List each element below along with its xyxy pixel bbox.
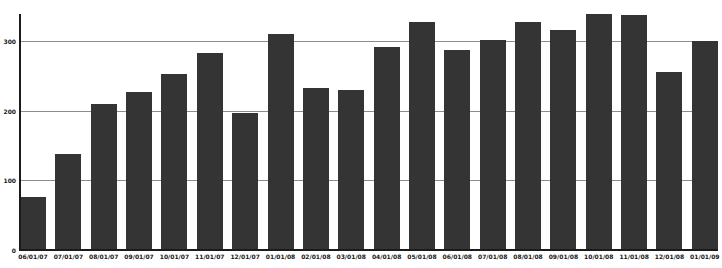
bar: [692, 41, 718, 250]
x-tick-slot: 09/01/07: [126, 253, 152, 263]
x-tick-label: 11/01/07: [195, 253, 224, 260]
x-tick-label: 02/01/08: [301, 253, 330, 260]
x-tick-label: 07/01/07: [54, 253, 83, 260]
x-tick-slot: 06/01/07: [20, 253, 46, 263]
bars-layer: [20, 14, 718, 250]
x-tick-slot: 07/01/08: [480, 253, 506, 263]
bar: [374, 47, 400, 250]
x-tick-slot: 06/01/08: [444, 253, 470, 263]
bar: [338, 90, 364, 250]
bar: [480, 40, 506, 250]
x-tick-label: 10/01/08: [584, 253, 613, 260]
x-tick-slot: 07/01/07: [55, 253, 81, 263]
x-tick-label: 12/01/07: [230, 253, 259, 260]
x-tick-label: 01/01/08: [266, 253, 295, 260]
y-tick-label: 200: [0, 108, 16, 115]
bar: [621, 15, 647, 250]
bar: [586, 14, 612, 250]
bar: [409, 22, 435, 250]
bar: [268, 34, 294, 250]
x-tick-slot: 10/01/07: [161, 253, 187, 263]
y-tick-label: 100: [0, 177, 16, 184]
x-tick-label: 04/01/08: [372, 253, 401, 260]
x-tick-slot: 11/01/07: [197, 253, 223, 263]
y-tick-label: 0: [0, 247, 16, 254]
x-tick-label: 12/01/08: [655, 253, 684, 260]
bar: [303, 88, 329, 250]
bar: [55, 154, 81, 250]
x-tick-label: 08/01/07: [89, 253, 118, 260]
bar: [444, 50, 470, 250]
bar: [20, 197, 46, 250]
x-tick-label: 06/01/08: [443, 253, 472, 260]
x-tick-label: 11/01/08: [619, 253, 648, 260]
x-tick-label: 08/01/08: [513, 253, 542, 260]
x-tick-slot: 03/01/08: [338, 253, 364, 263]
x-axis: [19, 249, 718, 251]
x-tick-slot: 04/01/08: [374, 253, 400, 263]
x-axis-labels: 06/01/0707/01/0708/01/0709/01/0710/01/07…: [20, 253, 718, 263]
bar-chart: 0100200300 06/01/0707/01/0708/01/0709/01…: [0, 0, 722, 268]
x-tick-slot: 09/01/08: [550, 253, 576, 263]
bar: [515, 22, 541, 250]
x-tick-slot: 11/01/08: [621, 253, 647, 263]
bar-chart-screenshot: 0100200300 06/01/0707/01/0708/01/0709/01…: [0, 0, 722, 268]
bar: [91, 104, 117, 250]
x-tick-slot: 10/01/08: [586, 253, 612, 263]
x-tick-label: 07/01/08: [478, 253, 507, 260]
bar: [161, 74, 187, 250]
x-tick-slot: 05/01/08: [409, 253, 435, 263]
x-tick-slot: 08/01/07: [91, 253, 117, 263]
x-tick-slot: 01/01/08: [268, 253, 294, 263]
x-tick-label: 01/01/09: [690, 253, 719, 260]
bar: [550, 30, 576, 250]
x-tick-label: 06/01/07: [18, 253, 47, 260]
x-tick-label: 09/01/07: [124, 253, 153, 260]
x-tick-label: 09/01/08: [549, 253, 578, 260]
x-tick-label: 10/01/07: [160, 253, 189, 260]
x-tick-slot: 08/01/08: [515, 253, 541, 263]
bar: [232, 113, 258, 250]
x-tick-slot: 12/01/08: [656, 253, 682, 263]
y-axis: [19, 14, 21, 251]
x-tick-label: 03/01/08: [337, 253, 366, 260]
bar: [126, 92, 152, 250]
bar: [656, 72, 682, 250]
y-tick-label: 300: [0, 38, 16, 45]
bar: [197, 53, 223, 250]
x-tick-label: 05/01/08: [407, 253, 436, 260]
x-tick-slot: 12/01/07: [232, 253, 258, 263]
x-tick-slot: 01/01/09: [692, 253, 718, 263]
x-tick-slot: 02/01/08: [303, 253, 329, 263]
